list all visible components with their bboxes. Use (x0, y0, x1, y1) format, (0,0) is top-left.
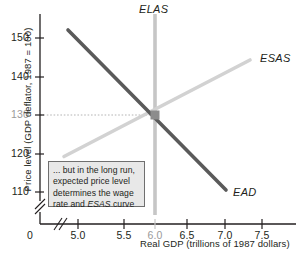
elas-curve-label: ELAS (139, 3, 168, 15)
annotation-text-esas: ESAS (87, 199, 110, 209)
annotation-text-part-3: curve (111, 199, 135, 209)
x-tick-label-5-0: 5.0 (63, 229, 93, 241)
x-tick-label-5-5: 5.5 (109, 229, 139, 241)
chart-plot-area (0, 0, 302, 257)
equilibrium-point-marker (151, 111, 160, 120)
long-run-annotation-box: ... but in the long run, expected price … (48, 161, 145, 207)
chart-figure: 150 140 130 120 110 0 5.0 5.5 6.0 6.5 7.… (0, 0, 302, 257)
ead-curve-label: EAD (233, 186, 257, 198)
origin-label: 0 (27, 229, 33, 241)
esas-curve-label: ESAS (260, 52, 291, 64)
x-axis-title: Real GDP (trillions of 1987 dollars) (140, 238, 290, 249)
y-axis-title: Price level (GDP deflator, 1987 = 100) (22, 32, 33, 192)
esas-curve (64, 60, 250, 157)
